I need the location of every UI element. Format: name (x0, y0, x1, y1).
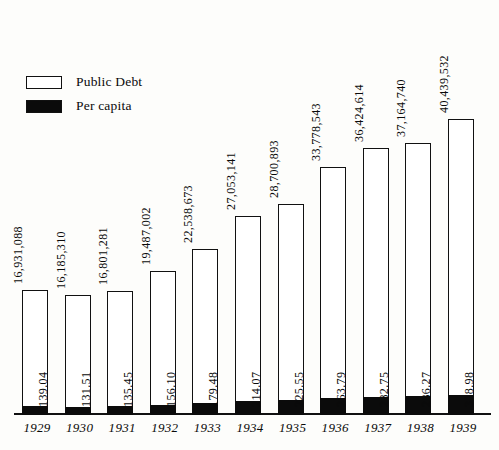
bar-value-label-public-debt: 37,164,740 (395, 79, 407, 143)
x-axis-tick-label: 1938 (397, 420, 443, 436)
x-axis-tick-label: 1932 (142, 420, 188, 436)
plot-area: 16,931,088139.04192916,185,310131.511930… (0, 0, 499, 450)
public-debt-bar-chart: Public DebtPer capita 16,931,088139.0419… (0, 0, 499, 450)
bar-value-label-public-debt: 16,931,088 (12, 226, 24, 290)
bar-value-label-per-capita: 131.51 (80, 372, 92, 411)
bar-value-label-public-debt: 22,538,673 (182, 185, 194, 249)
x-axis-tick-label: 1935 (270, 420, 316, 436)
x-axis-tick-label: 1936 (312, 420, 358, 436)
bar-value-label-public-debt: 19,487,002 (140, 207, 152, 271)
bar-public-debt (448, 119, 474, 413)
x-axis-tick-label: 1937 (355, 420, 401, 436)
bar-value-label-per-capita: 135.45 (122, 372, 134, 411)
bar-value-label-per-capita: 139.04 (37, 372, 49, 411)
x-axis-tick-label: 1939 (440, 420, 486, 436)
bar-value-label-per-capita: 214.07 (250, 372, 262, 411)
x-axis-tick-label: 1929 (14, 420, 60, 436)
bar-value-label-public-debt: 16,801,281 (97, 227, 109, 291)
bar-value-label-public-debt: 27,053,141 (225, 152, 237, 216)
bar-value-label-public-debt: 33,778,543 (310, 103, 322, 167)
bar-value-label-per-capita: 225.55 (293, 372, 305, 411)
x-axis-tick-label: 1930 (57, 420, 103, 436)
bar-value-label-per-capita: 286.27 (420, 372, 432, 411)
bar-value-label-public-debt: 16,185,310 (55, 231, 67, 295)
bar-value-label-per-capita: 308.98 (463, 372, 475, 411)
bar-value-label-per-capita: 282.75 (378, 372, 390, 411)
bar-value-label-public-debt: 36,424,614 (353, 84, 365, 148)
x-axis-tick-label: 1931 (99, 420, 145, 436)
bar-value-label-public-debt: 40,439,532 (438, 55, 450, 119)
x-axis-tick-label: 1934 (227, 420, 273, 436)
bar-value-label-per-capita: 156.10 (165, 372, 177, 411)
bar-value-label-per-capita: 263.79 (335, 372, 347, 411)
bar-value-label-per-capita: 179.48 (207, 372, 219, 411)
x-axis-tick-label: 1933 (184, 420, 230, 436)
bar-value-label-public-debt: 28,700,893 (268, 140, 280, 204)
